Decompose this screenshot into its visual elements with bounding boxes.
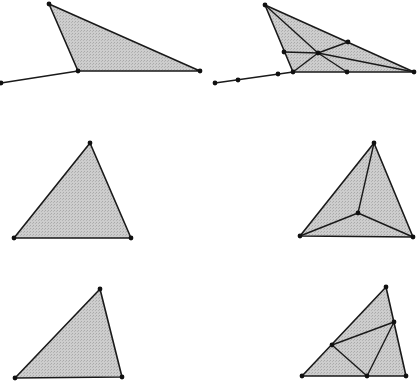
triangle-shape <box>49 4 200 71</box>
panels-group <box>0 2 416 381</box>
vertex-point <box>316 51 321 56</box>
vertex-point <box>392 320 397 325</box>
vertex-point <box>346 40 351 45</box>
tail-edge <box>215 72 293 83</box>
vertex-point <box>282 50 287 55</box>
vertex-point <box>263 3 268 8</box>
subdivision-edge <box>284 52 318 53</box>
vertex-point <box>412 70 417 75</box>
vertex-point <box>88 141 93 146</box>
panel-top-right <box>213 3 417 86</box>
vertex-point <box>76 69 81 74</box>
panel-top-left <box>0 2 202 86</box>
vertex-point <box>298 234 303 239</box>
vertex-point <box>356 211 361 216</box>
triangle-shape <box>15 289 122 378</box>
triangle-shape <box>300 143 413 237</box>
vertex-point <box>12 236 17 241</box>
vertex-point <box>404 374 409 379</box>
vertex-point <box>330 343 335 348</box>
vertex-point <box>372 141 377 146</box>
vertex-point <box>120 375 125 380</box>
vertex-point <box>384 285 389 290</box>
vertex-point <box>47 2 52 7</box>
panel-bottom-right <box>300 285 409 379</box>
panel-middle-right <box>298 141 416 240</box>
vertex-point <box>276 72 281 77</box>
vertex-point <box>0 81 3 86</box>
vertex-point <box>98 287 103 292</box>
triangle-shape <box>302 287 406 376</box>
vertex-point <box>411 235 416 240</box>
vertex-point <box>365 374 370 379</box>
panel-middle-left <box>12 141 134 241</box>
vertex-point <box>198 69 203 74</box>
vertex-point <box>236 78 241 83</box>
triangle-shape <box>265 5 414 72</box>
vertex-point <box>129 236 134 241</box>
diagram-canvas <box>0 0 419 390</box>
vertex-point <box>291 70 296 75</box>
triangle-shape <box>14 143 131 238</box>
vertex-point <box>213 81 218 86</box>
vertex-point <box>345 70 350 75</box>
panel-bottom-left <box>13 287 125 381</box>
tail-edge <box>1 71 78 83</box>
vertex-point <box>13 376 18 381</box>
vertex-point <box>300 374 305 379</box>
